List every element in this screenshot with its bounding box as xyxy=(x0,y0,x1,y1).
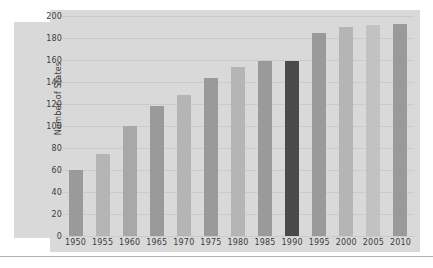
bar[interactable] xyxy=(231,67,245,236)
x-axis-tick-label: 1955 xyxy=(89,238,116,252)
plot-area xyxy=(62,16,414,236)
bar-slot xyxy=(279,16,306,236)
bar-slot xyxy=(62,16,89,236)
y-axis-tick-label: 140 xyxy=(46,78,62,87)
y-axis-tick-label: 160 xyxy=(46,56,62,65)
x-axis-tick-label: 1975 xyxy=(197,238,224,252)
bar[interactable] xyxy=(339,27,353,236)
x-axis-tick-label: 2005 xyxy=(360,238,387,252)
x-axis-tick-label: 1990 xyxy=(279,238,306,252)
bar-slot xyxy=(143,16,170,236)
y-axis-tick-label: 20 xyxy=(51,210,62,219)
bar-slot xyxy=(360,16,387,236)
y-axis-tick-label: 120 xyxy=(46,100,62,109)
x-axis-tick-label: 1965 xyxy=(143,238,170,252)
bar[interactable] xyxy=(285,61,299,236)
y-axis-tick-label: 40 xyxy=(51,188,62,197)
y-axis-tick-label: 200 xyxy=(46,12,62,21)
bar[interactable] xyxy=(96,154,110,237)
bar[interactable] xyxy=(258,61,272,236)
x-axis-ticks: 1950195519601965197019751980198519901995… xyxy=(62,238,414,252)
bar-slot xyxy=(116,16,143,236)
x-axis-tick-label: 1960 xyxy=(116,238,143,252)
bar[interactable] xyxy=(393,24,407,236)
y-axis-tick-label: 100 xyxy=(46,122,62,131)
panel-corner-notch-top xyxy=(14,10,50,22)
bar[interactable] xyxy=(69,170,83,236)
panel-corner-notch-bottom xyxy=(14,238,50,252)
bar[interactable] xyxy=(177,95,191,236)
y-axis-tick-label: 80 xyxy=(51,144,62,153)
bar-chart-figure: Number of States 20018016014012010080604… xyxy=(0,0,433,268)
bar-slot xyxy=(170,16,197,236)
bar-slot xyxy=(333,16,360,236)
bar-slot xyxy=(387,16,414,236)
bar[interactable] xyxy=(312,33,326,237)
bar[interactable] xyxy=(123,126,137,236)
bar-slot xyxy=(306,16,333,236)
x-axis-tick-label: 1995 xyxy=(306,238,333,252)
bar-slot xyxy=(224,16,251,236)
x-axis-tick-label: 2000 xyxy=(333,238,360,252)
bar-slot xyxy=(197,16,224,236)
bar-series xyxy=(62,16,414,236)
x-axis-tick-label: 2010 xyxy=(387,238,414,252)
y-axis-tick-label: 180 xyxy=(46,34,62,43)
x-axis-tick-label: 1980 xyxy=(224,238,251,252)
x-axis-tick-label: 1985 xyxy=(252,238,279,252)
gridline xyxy=(62,236,414,237)
x-axis-tick-label: 1950 xyxy=(62,238,89,252)
bar[interactable] xyxy=(150,106,164,236)
bar[interactable] xyxy=(366,25,380,236)
x-axis-tick-label: 1970 xyxy=(170,238,197,252)
bar-slot xyxy=(89,16,116,236)
y-axis-ticks: Number of States 20018016014012010080604… xyxy=(48,16,62,236)
bar-slot xyxy=(252,16,279,236)
bar[interactable] xyxy=(204,78,218,236)
y-axis-tick-label: 60 xyxy=(51,166,62,175)
bottom-divider xyxy=(0,256,433,257)
